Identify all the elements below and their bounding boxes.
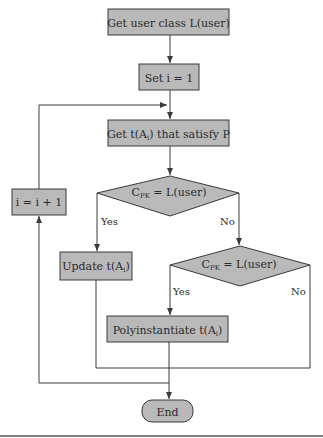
node-get-user-class-label: Get user class L(user) [107,17,230,30]
edge-label-d2-yes: Yes [172,286,190,297]
node-increment-i-label: i = i + 1 [16,196,62,209]
text-part: ) that satisfy P [149,128,230,141]
node-get-user-class: Get user class L(user) [107,9,230,35]
text-part: ) [218,324,222,337]
node-get-t-label: Get t(Ai) that satisfy P [107,128,230,142]
edge-loop-bottom [39,216,169,383]
text-part: Polyinstantiate t(A [113,324,217,337]
node-get-t: Get t(Ai) that satisfy P [107,120,230,146]
node-increment-i: i = i + 1 [12,189,66,215]
text-part: Get t(A [107,128,148,141]
node-end: End [142,400,193,422]
text-part: Update t(A [62,260,124,273]
text-part: C [132,186,140,199]
node-decision2: CPK = L(user) [170,246,310,286]
text-part: = L(user) [150,186,207,199]
node-decision1: CPK = L(user) [97,176,239,216]
text-part: ) [125,260,129,273]
node-polyinstantiate-label: Polyinstantiate t(Ai) [113,324,223,338]
node-set-i: Set i = 1 [139,64,199,90]
node-set-i-label: Set i = 1 [145,72,194,85]
edge-label-d1-no: No [220,216,235,227]
edge-label-d2-no: No [291,286,306,297]
flowchart: Get user class L(user) Set i = 1 Get t(A… [0,0,323,438]
text-part: C [202,258,210,271]
node-update-t: Update t(Ai) [60,252,132,280]
edge-label-d1-yes: Yes [100,216,118,227]
node-polyinstantiate: Polyinstantiate t(Ai) [107,316,228,342]
node-update-t-label: Update t(Ai) [62,260,130,274]
node-end-label: End [156,406,178,419]
text-part: = L(user) [220,258,277,271]
